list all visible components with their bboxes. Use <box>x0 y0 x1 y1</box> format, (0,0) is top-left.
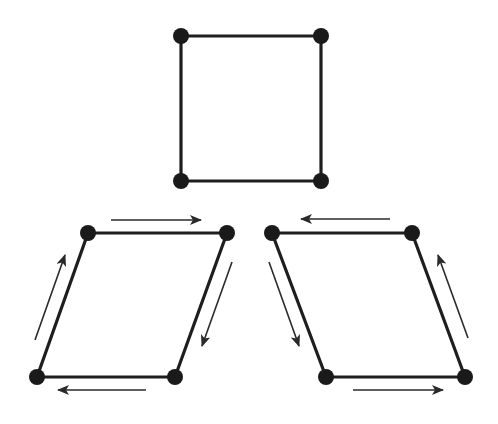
parallelogram-left <box>29 220 235 390</box>
shear-diagram <box>0 0 498 424</box>
arrow-up-right-icon <box>35 255 65 340</box>
vertex-dot <box>80 225 96 241</box>
arrow-down-right-icon <box>269 262 299 346</box>
vertex-dot <box>167 369 183 385</box>
vertex-dot <box>219 225 235 241</box>
arrow-up-left-icon <box>438 255 468 338</box>
vertex-dot <box>457 369 473 385</box>
parallelogram-right <box>264 219 473 390</box>
vertex-dot <box>404 225 420 241</box>
parallelogram-right-outline <box>272 233 465 377</box>
vertex-dot <box>29 369 45 385</box>
shapes-layer <box>29 28 473 390</box>
parallelogram-left-outline <box>37 233 227 377</box>
vertex-dot <box>264 225 280 241</box>
square <box>173 28 329 189</box>
vertex-dot <box>318 369 334 385</box>
diagram-canvas <box>0 0 498 424</box>
vertex-dot <box>313 173 329 189</box>
arrow-down-left-icon <box>202 262 232 346</box>
vertex-dot <box>313 28 329 44</box>
vertex-dot <box>173 173 189 189</box>
vertex-dot <box>173 28 189 44</box>
square-outline <box>181 36 321 181</box>
